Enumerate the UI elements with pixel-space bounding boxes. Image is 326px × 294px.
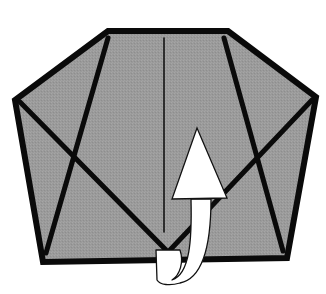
diagram-canvas [0,0,326,294]
origami-diagram: Pentagonal paper shape with crease lines… [0,0,326,294]
